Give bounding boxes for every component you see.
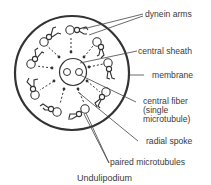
central-fiber-right <box>76 69 83 76</box>
label-central-sheath: central sheath <box>138 46 192 56</box>
leader-lines <box>78 14 144 163</box>
label-paired-microtubules: paired microtubules <box>110 157 185 167</box>
label-dynein-arms: dynein arms <box>145 9 192 19</box>
label-radial-spoke: radial spoke <box>146 136 192 146</box>
central-fiber-left <box>64 69 71 76</box>
label-membrane: membrane <box>152 70 193 80</box>
label-central-fiber-line3: microtubule) <box>143 114 190 124</box>
diagram-caption: Undulipodium <box>77 173 132 183</box>
